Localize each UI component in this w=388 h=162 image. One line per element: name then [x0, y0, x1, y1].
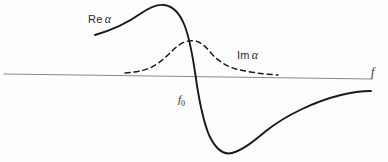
im-alpha-label: Imα: [237, 49, 258, 61]
re-alpha-symbol: α: [103, 12, 112, 26]
re-alpha-curve: [95, 5, 371, 154]
resonance-polarizability-figure: Reα Imα f0 f: [0, 0, 388, 162]
re-alpha-prefix: Re: [88, 13, 103, 25]
im-alpha-prefix: Im: [237, 49, 250, 61]
resonance-frequency-label: f0: [178, 94, 185, 108]
im-alpha-symbol: α: [250, 48, 259, 62]
plot-area: [0, 0, 388, 162]
resonance-frequency-subscript: 0: [181, 99, 185, 108]
frequency-axis-label: f: [371, 66, 374, 78]
frequency-axis-line: [4, 74, 372, 79]
re-alpha-label: Reα: [88, 13, 111, 25]
